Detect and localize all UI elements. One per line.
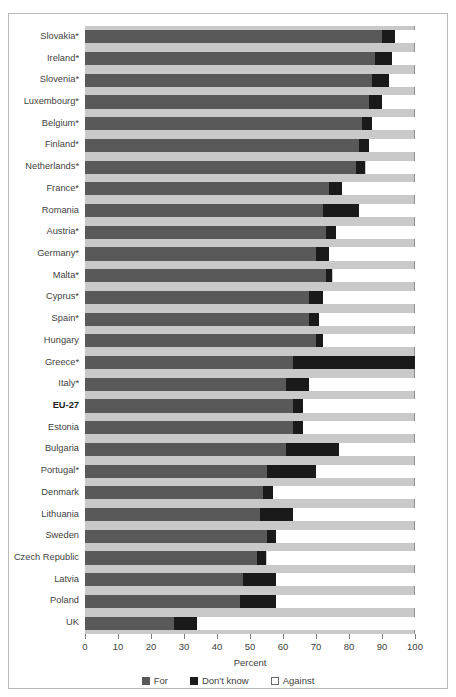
bar-segment-against — [323, 334, 415, 347]
legend-item-label: For — [154, 675, 168, 686]
category-label: Czech Republic — [14, 553, 79, 562]
bar-segment-against — [382, 95, 415, 108]
x-axis-tick-label: 70 — [311, 641, 322, 652]
bar-segment-against — [333, 269, 416, 282]
bar-segment-for — [85, 161, 356, 174]
bar-segment-for — [85, 30, 382, 43]
bar-segment-against — [276, 595, 415, 608]
bar-segment-for — [85, 52, 375, 65]
bar-row — [85, 204, 415, 217]
category-label: Estonia — [48, 423, 79, 432]
category-label: Slovakia* — [40, 32, 79, 41]
bar-row — [85, 182, 415, 195]
bar-segment-dont-know — [286, 378, 309, 391]
x-axis-tick — [217, 634, 218, 639]
bar-segment-against — [273, 486, 415, 499]
bar-segment-for — [85, 486, 263, 499]
x-axis-tick-label: 90 — [377, 641, 388, 652]
bar-segment-against — [372, 117, 415, 130]
category-label: Ireland* — [47, 54, 79, 63]
bar-segment-dont-know — [174, 617, 197, 630]
bar-row — [85, 595, 415, 608]
category-label: Denmark — [41, 488, 79, 497]
bar-segment-dont-know — [267, 530, 277, 543]
bar-segment-for — [85, 291, 309, 304]
bar-segment-dont-know — [257, 551, 267, 564]
bar-row — [85, 226, 415, 239]
category-label: Belgium* — [42, 119, 79, 128]
category-label: France* — [46, 184, 79, 193]
x-axis — [85, 634, 415, 640]
x-axis-tick — [349, 634, 350, 639]
bar-segment-dont-know — [309, 313, 319, 326]
x-axis-tick — [85, 634, 86, 639]
bar-segment-against — [339, 443, 415, 456]
bar-segment-dont-know — [309, 291, 322, 304]
bar-segment-against — [392, 52, 415, 65]
bar-segment-dont-know — [243, 573, 276, 586]
bar-row — [85, 530, 415, 543]
figure-caption — [10, 0, 440, 12]
bar-segment-against — [329, 247, 415, 260]
legend-item: Against — [271, 675, 315, 686]
bar-segment-dont-know — [263, 486, 273, 499]
legend-item: For — [142, 675, 168, 686]
x-axis-tick — [415, 634, 416, 639]
bar-segment-against — [303, 399, 415, 412]
bar-segment-dont-know — [316, 247, 329, 260]
bar-segment-dont-know — [293, 356, 415, 369]
category-label: Italy* — [58, 379, 79, 388]
category-axis-labels: Slovakia*Ireland*Slovenia*Luxembourg*Bel… — [9, 26, 79, 634]
category-label: Lithuania — [41, 510, 79, 519]
x-axis-tick-label: 60 — [278, 641, 289, 652]
bar-segment-for — [85, 573, 243, 586]
x-axis-tick-label: 40 — [212, 641, 223, 652]
bar-segment-for — [85, 117, 362, 130]
bar-row — [85, 269, 415, 282]
bar-segment-against — [303, 421, 415, 434]
category-label: Germany* — [37, 249, 79, 258]
bar-segment-dont-know — [326, 269, 333, 282]
x-axis-tick-label: 0 — [82, 641, 87, 652]
bar-segment-dont-know — [326, 226, 336, 239]
x-axis-tick — [283, 634, 284, 639]
category-label: Bulgaria — [45, 444, 79, 453]
bar-row — [85, 139, 415, 152]
legend-item-label: Don't know — [202, 675, 249, 686]
bar-segment-for — [85, 595, 240, 608]
bar-row — [85, 617, 415, 630]
x-axis-tick-label: 10 — [113, 641, 124, 652]
bar-segment-dont-know — [267, 465, 317, 478]
bar-segment-against — [366, 161, 416, 174]
legend-swatch-against-icon — [271, 677, 279, 685]
bar-segment-for — [85, 182, 329, 195]
bar-segment-for — [85, 421, 293, 434]
category-label: Hungary — [44, 336, 79, 345]
x-axis-tick-label: 50 — [245, 641, 256, 652]
bar-segment-dont-know — [293, 399, 303, 412]
legend-item: Don't know — [190, 675, 249, 686]
bar-segment-for — [85, 356, 293, 369]
x-axis-tick-label: 30 — [179, 641, 190, 652]
x-axis-tick — [118, 634, 119, 639]
bar-segment-for — [85, 508, 260, 521]
bar-row — [85, 334, 415, 347]
bar-segment-against — [276, 530, 415, 543]
bar-segment-against — [359, 204, 415, 217]
bar-segment-for — [85, 247, 316, 260]
bar-segment-for — [85, 95, 369, 108]
category-label: Latvia — [54, 575, 79, 584]
x-axis-title: Percent — [85, 657, 415, 668]
bar-row — [85, 421, 415, 434]
bar-row — [85, 465, 415, 478]
bar-row — [85, 247, 415, 260]
bar-row — [85, 30, 415, 43]
x-axis-tick — [382, 634, 383, 639]
bar-row — [85, 378, 415, 391]
bar-segment-dont-know — [286, 443, 339, 456]
bar-segment-for — [85, 74, 372, 87]
legend-swatch-dont-know-icon — [190, 677, 198, 685]
bar-row — [85, 161, 415, 174]
bar-segment-against — [323, 291, 415, 304]
category-label: UK — [66, 618, 79, 627]
